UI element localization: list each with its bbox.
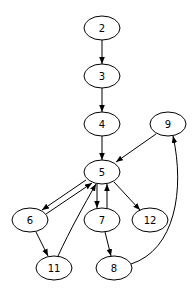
svg-text:3: 3 <box>99 71 105 82</box>
node-11: 11 <box>36 256 72 280</box>
node-12: 12 <box>132 208 168 232</box>
node-5: 5 <box>84 160 120 184</box>
svg-text:6: 6 <box>27 215 33 226</box>
node-6: 6 <box>12 208 48 232</box>
node-9: 9 <box>150 112 186 136</box>
node-4: 4 <box>84 112 120 136</box>
svg-text:4: 4 <box>99 119 105 130</box>
svg-text:12: 12 <box>144 215 157 226</box>
svg-text:11: 11 <box>48 263 61 274</box>
edge-5-to-6 <box>42 180 86 210</box>
svg-text:7: 7 <box>99 215 105 226</box>
edge-6-to-11 <box>36 232 48 256</box>
svg-text:8: 8 <box>111 263 117 274</box>
edge-5-to-12 <box>114 182 140 210</box>
node-2: 2 <box>84 16 120 40</box>
graph-canvas: 2 3 4 9 5 6 7 12 11 8 <box>0 0 196 300</box>
edge-9-to-5 <box>116 134 156 162</box>
edge-7-to-8 <box>105 232 111 256</box>
edge-8-to-9 <box>131 136 178 264</box>
svg-text:2: 2 <box>99 23 105 34</box>
svg-text:9: 9 <box>165 119 171 130</box>
node-8: 8 <box>96 256 132 280</box>
node-3: 3 <box>84 64 120 88</box>
node-7: 7 <box>84 208 120 232</box>
edge-6-to-5 <box>46 183 92 214</box>
svg-text:5: 5 <box>99 167 105 178</box>
